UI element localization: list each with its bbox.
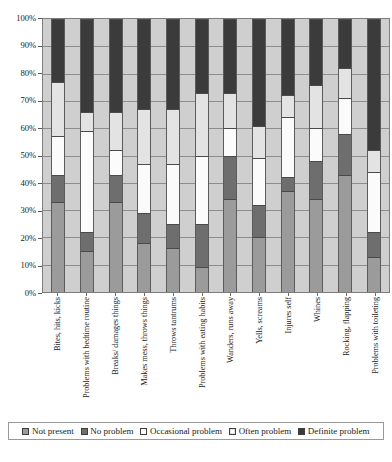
bar-segment <box>109 202 123 292</box>
x-axis-tick-mark <box>86 293 87 296</box>
bar-segment <box>109 112 123 150</box>
x-axis-tick-label: Wanders, runs away <box>226 297 235 363</box>
bar-segment <box>166 248 180 292</box>
x-axis-tick: Whines <box>310 293 324 411</box>
legend-label: Occasional problem <box>150 426 222 436</box>
x-axis-tick: Injures self <box>281 293 295 411</box>
y-axis-tick-label: 30% <box>0 206 36 215</box>
x-axis: Bites, hits, kicksProblems with bedtime … <box>42 293 390 411</box>
x-axis-tick-label: Yells, screams <box>255 297 264 344</box>
y-axis-tick-label: 50% <box>0 151 36 160</box>
chart-legend: Not presentNo problemOccasional problemO… <box>8 422 384 440</box>
x-axis-tick: Problems with toileting <box>368 293 382 411</box>
bar-segment <box>137 243 151 292</box>
bar-segment <box>252 126 266 159</box>
legend-item: Occasional problem <box>140 426 222 436</box>
bar-column <box>166 19 180 292</box>
x-axis-tick-label: Injures self <box>284 297 293 334</box>
bar-segment <box>166 19 180 109</box>
y-axis-tick-label: 100% <box>0 14 36 23</box>
bar-segment <box>166 224 180 249</box>
bar-segment <box>309 128 323 161</box>
x-axis-tick: Wanders, runs away <box>223 293 237 411</box>
bar-segment <box>80 232 94 251</box>
legend-label: Not present <box>32 426 74 436</box>
x-axis-tick: Problems with bedtime routine <box>79 293 93 411</box>
x-axis-tick-mark <box>346 293 347 296</box>
y-axis-tick-label: 40% <box>0 179 36 188</box>
bar-segment <box>367 150 381 172</box>
x-axis-tick: Yells, screams <box>252 293 266 411</box>
bar-column <box>137 19 151 292</box>
x-axis-tick-mark <box>317 293 318 296</box>
bar-segment <box>309 199 323 292</box>
x-axis-tick-mark <box>173 293 174 296</box>
bar-segment <box>281 191 295 292</box>
x-axis-tick: Problems with eating habits <box>195 293 209 411</box>
y-axis-tick-label: 90% <box>0 41 36 50</box>
bar-segment <box>51 202 65 292</box>
y-axis-tick-label: 0% <box>0 289 36 298</box>
bar-segment <box>223 93 237 128</box>
bar-segment <box>80 131 94 232</box>
bar-segment <box>281 177 295 191</box>
legend-label: No problem <box>90 426 133 436</box>
bar-segment <box>252 237 266 292</box>
bar-column <box>80 19 94 292</box>
bar-column <box>281 19 295 292</box>
y-axis-tick-label: 70% <box>0 96 36 105</box>
stacked-bar-chart: 100%90%80%70%60%50%40%30%20%10%0% Bites,… <box>0 0 392 462</box>
bar-segment <box>80 112 94 131</box>
bar-segment <box>195 93 209 156</box>
y-axis: 100%90%80%70%60%50%40%30%20%10%0% <box>0 13 40 295</box>
bar-segment <box>51 19 65 82</box>
x-axis-tick-label: Bites, hits, kicks <box>53 297 62 351</box>
bar-column <box>338 19 352 292</box>
bar-segment <box>281 19 295 95</box>
bar-segment <box>109 150 123 175</box>
x-axis-tick-mark <box>259 293 260 296</box>
bar-segment <box>166 164 180 224</box>
legend-swatch-icon <box>298 428 305 435</box>
x-axis-tick: Rocking, flapping <box>339 293 353 411</box>
bar-segment <box>223 128 237 155</box>
bar-segment <box>338 98 352 133</box>
bar-segment <box>367 257 381 292</box>
bar-column <box>223 19 237 292</box>
bar-column <box>252 19 266 292</box>
legend-label: Definite problem <box>308 426 370 436</box>
x-axis-tick-label: Problems with bedtime routine <box>82 297 91 398</box>
bar-segment <box>195 19 209 93</box>
x-axis-tick-label: Throws tantrums <box>168 297 177 353</box>
bar-segment <box>338 19 352 68</box>
legend-swatch-icon <box>140 428 147 435</box>
legend-item: Not present <box>22 426 73 436</box>
x-axis-tick-mark <box>144 293 145 296</box>
bar-segment <box>80 251 94 292</box>
plot-area <box>42 18 390 293</box>
bar-segment <box>252 158 266 204</box>
bar-segment <box>195 224 209 268</box>
bar-segment <box>252 205 266 238</box>
bar-segment <box>309 161 323 199</box>
x-axis-tick-label: Rocking, flapping <box>341 297 350 356</box>
y-axis-tick-label: 20% <box>0 234 36 243</box>
bar-segment <box>137 19 151 109</box>
bar-segment <box>195 156 209 224</box>
x-axis-tick: Throws tantrums <box>166 293 180 411</box>
x-axis-tick: Breaks/ damages things <box>108 293 122 411</box>
bar-segment <box>281 95 295 117</box>
bar-segment <box>109 175 123 202</box>
legend-swatch-icon <box>229 428 236 435</box>
x-axis-tick-mark <box>57 293 58 296</box>
x-axis-tick: Makes mess, throws things <box>137 293 151 411</box>
bar-segment <box>166 109 180 164</box>
bar-segment <box>51 175 65 202</box>
bar-segment <box>309 85 323 129</box>
x-axis-tick-label: Whines <box>312 297 321 322</box>
bar-segment <box>51 82 65 137</box>
bar-segment <box>338 68 352 98</box>
bar-segment <box>223 156 237 200</box>
bar-segment <box>338 134 352 175</box>
legend-swatch-icon <box>81 428 88 435</box>
